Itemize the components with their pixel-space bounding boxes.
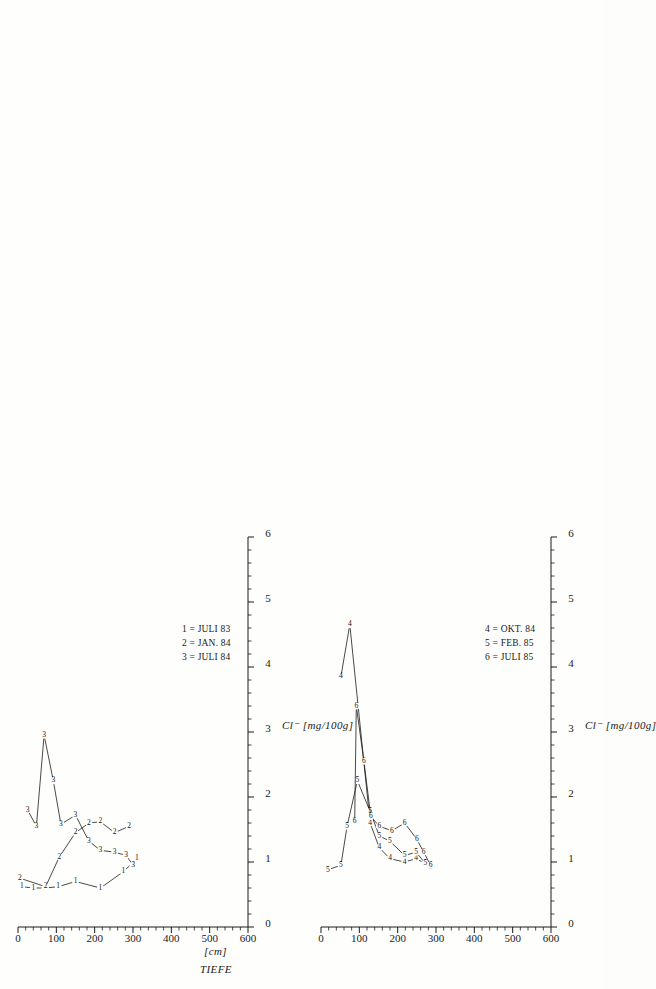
svg-text:6: 6: [354, 701, 358, 710]
svg-text:6: 6: [353, 816, 357, 825]
svg-text:500: 500: [201, 932, 218, 944]
svg-text:4: 4: [388, 853, 392, 862]
chart-left-y-axis-unit: [cm]: [204, 945, 227, 957]
svg-text:3: 3: [87, 836, 91, 845]
svg-text:6: 6: [415, 834, 419, 843]
svg-text:2: 2: [568, 787, 574, 799]
svg-text:5: 5: [345, 821, 349, 830]
svg-text:4: 4: [377, 842, 381, 851]
svg-text:3: 3: [51, 775, 55, 784]
svg-text:3: 3: [568, 722, 574, 734]
svg-text:300: 300: [428, 932, 445, 944]
svg-text:3: 3: [265, 722, 271, 734]
svg-text:6: 6: [265, 527, 271, 539]
chart-right: 0123456010020030040050060044444444455555…: [303, 519, 603, 989]
svg-text:6: 6: [403, 818, 407, 827]
svg-text:1: 1: [265, 852, 271, 864]
svg-text:3: 3: [74, 810, 78, 819]
svg-text:600: 600: [240, 932, 257, 944]
svg-text:3: 3: [131, 860, 135, 869]
svg-text:1: 1: [56, 881, 60, 890]
svg-text:6: 6: [429, 860, 433, 869]
svg-text:3: 3: [59, 819, 63, 828]
svg-text:2: 2: [18, 873, 22, 882]
svg-text:3: 3: [124, 850, 128, 859]
svg-text:100: 100: [351, 932, 368, 944]
svg-text:4: 4: [348, 619, 352, 628]
svg-text:2: 2: [74, 827, 78, 836]
svg-text:1: 1: [568, 852, 574, 864]
svg-text:2: 2: [87, 818, 91, 827]
svg-text:6: 6: [369, 811, 373, 820]
chart-left-legend: 1 = JULI 83 2 = JAN. 84 3 = JULI 84: [182, 623, 231, 664]
chart-left-canvas: 0123456010020030040050060011111111222222…: [0, 519, 300, 989]
svg-text:1: 1: [31, 883, 35, 892]
chart-right-x-axis-title: Cl⁻ [mg/100g]: [585, 719, 656, 732]
svg-text:2: 2: [58, 852, 62, 861]
svg-text:6: 6: [568, 527, 574, 539]
svg-text:5: 5: [423, 858, 427, 867]
chart-right-canvas: 0123456010020030040050060044444444455555…: [303, 519, 603, 989]
svg-text:0: 0: [568, 917, 574, 929]
svg-text:2: 2: [113, 827, 117, 836]
svg-text:5: 5: [377, 831, 381, 840]
svg-text:1: 1: [74, 876, 78, 885]
svg-text:5: 5: [388, 836, 392, 845]
svg-text:2: 2: [99, 816, 103, 825]
svg-text:3: 3: [99, 845, 103, 854]
svg-text:100: 100: [48, 932, 65, 944]
svg-text:5: 5: [356, 775, 360, 784]
svg-text:2: 2: [44, 881, 48, 890]
legend-entry-5: 5 = FEB. 85: [485, 637, 535, 651]
svg-text:4: 4: [339, 671, 343, 680]
svg-text:200: 200: [86, 932, 103, 944]
svg-text:5: 5: [326, 865, 330, 874]
svg-text:5: 5: [403, 850, 407, 859]
svg-text:500: 500: [504, 932, 521, 944]
svg-text:3: 3: [35, 821, 39, 830]
svg-text:4: 4: [265, 657, 271, 669]
legend-entry-2: 2 = JAN. 84: [182, 637, 231, 651]
svg-text:0: 0: [265, 917, 271, 929]
svg-text:2: 2: [127, 821, 131, 830]
svg-text:6: 6: [362, 756, 366, 765]
svg-text:600: 600: [543, 932, 560, 944]
svg-text:3: 3: [26, 805, 30, 814]
svg-text:400: 400: [466, 932, 483, 944]
svg-text:400: 400: [163, 932, 180, 944]
chart-left: 0123456010020030040050060011111111222222…: [0, 519, 300, 989]
svg-text:3: 3: [113, 847, 117, 856]
svg-text:300: 300: [125, 932, 142, 944]
svg-text:6: 6: [390, 826, 394, 835]
svg-text:0: 0: [318, 932, 324, 944]
svg-text:2: 2: [265, 787, 271, 799]
svg-text:6: 6: [422, 847, 426, 856]
chart-right-legend: 4 = OKT. 84 5 = FEB. 85 6 = JULI 85: [485, 623, 535, 664]
legend-entry-6: 6 = JULI 85: [485, 651, 535, 665]
svg-text:5: 5: [339, 860, 343, 869]
legend-entry-4: 4 = OKT. 84: [485, 623, 535, 637]
svg-text:200: 200: [389, 932, 406, 944]
svg-text:1: 1: [20, 881, 24, 890]
svg-text:3: 3: [42, 730, 46, 739]
svg-text:5: 5: [414, 847, 418, 856]
svg-text:1: 1: [135, 853, 139, 862]
svg-text:5: 5: [265, 592, 271, 604]
svg-text:4: 4: [568, 657, 574, 669]
chart-left-y-axis-title: TIEFE: [200, 963, 232, 975]
svg-text:5: 5: [568, 592, 574, 604]
svg-text:0: 0: [15, 932, 21, 944]
svg-text:6: 6: [377, 821, 381, 830]
legend-entry-1: 1 = JULI 83: [182, 623, 231, 637]
svg-text:1: 1: [99, 883, 103, 892]
svg-text:1: 1: [122, 866, 126, 875]
legend-entry-3: 3 = JULI 84: [182, 651, 231, 665]
